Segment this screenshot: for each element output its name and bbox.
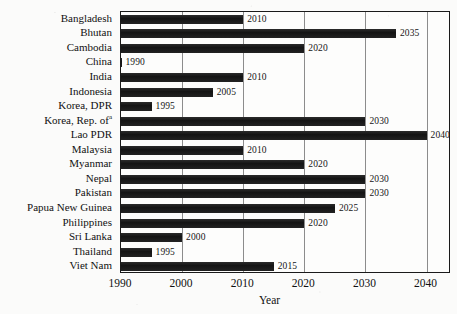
bar <box>121 248 152 257</box>
bar <box>121 131 427 140</box>
x-axis-title: Year <box>0 294 457 306</box>
bar-row: 2010 <box>121 12 449 27</box>
bar-row: 2020 <box>121 216 449 231</box>
bar-value-label: 2030 <box>369 117 388 126</box>
bar-row: 2000 <box>121 230 449 245</box>
bar <box>121 160 304 169</box>
bar <box>121 262 274 271</box>
bar-row: 2030 <box>121 187 449 202</box>
bar-row: 2015 <box>121 259 449 273</box>
x-tick-label: 2000 <box>170 277 193 289</box>
x-tick-label: 1990 <box>109 277 132 289</box>
category-label: Pakistan <box>75 187 112 198</box>
bar-value-label: 2015 <box>278 262 297 271</box>
bar-row: 1990 <box>121 56 449 71</box>
bar-value-label: 1990 <box>126 58 145 67</box>
category-label: Myanmar <box>69 158 112 169</box>
x-axis-ticks: 199020002010202020302040 <box>0 277 457 293</box>
category-label: China <box>86 56 112 67</box>
bar <box>121 117 365 126</box>
category-label-text: Korea, Rep. of <box>44 114 109 126</box>
bar <box>121 15 243 24</box>
category-label: Korea, Rep. ofa <box>44 115 112 126</box>
x-tick-label: 2040 <box>414 277 437 289</box>
bar-value-label: 2020 <box>308 160 327 169</box>
category-label: Cambodia <box>67 42 112 53</box>
bar <box>121 219 304 228</box>
bar-row: 2030 <box>121 114 449 129</box>
bar <box>121 44 304 53</box>
bar-row: 2025 <box>121 201 449 216</box>
bar-row: 2020 <box>121 41 449 56</box>
category-label: Malaysia <box>72 144 112 155</box>
plot-area: 2010203520201990201020051995203020402010… <box>120 11 450 273</box>
category-label: Philippines <box>62 217 112 228</box>
category-label: Bangladesh <box>61 13 112 24</box>
x-tick-label: 2010 <box>231 277 254 289</box>
bar <box>121 189 365 198</box>
category-label: Korea, DPR <box>58 100 112 111</box>
bar <box>121 29 396 38</box>
category-label: Bhutan <box>80 27 112 38</box>
bar-row: 1995 <box>121 245 449 260</box>
category-label: India <box>89 71 112 82</box>
category-label: Indonesia <box>69 86 112 97</box>
bar-row: 2035 <box>121 27 449 42</box>
bar <box>121 58 122 67</box>
bar-row: 2010 <box>121 70 449 85</box>
bar-row: 2040 <box>121 128 449 143</box>
category-label: Viet Nam <box>70 260 112 271</box>
category-label: Papua New Guinea <box>27 202 112 213</box>
bar <box>121 73 243 82</box>
category-label: Sri Lanka <box>69 231 112 242</box>
x-tick-label: 2020 <box>292 277 315 289</box>
chart-root: BangladeshBhutanCambodiaChinaIndiaIndone… <box>0 0 457 314</box>
footnote-marker: a <box>109 113 112 121</box>
x-tick-label: 2030 <box>353 277 376 289</box>
y-axis-category-labels: BangladeshBhutanCambodiaChinaIndiaIndone… <box>0 11 116 273</box>
category-label: Thailand <box>73 246 112 257</box>
bar <box>121 204 335 213</box>
bar-value-label: 2040 <box>431 131 450 140</box>
x-axis-title-text: Year <box>259 294 280 306</box>
bar-row: 2005 <box>121 85 449 100</box>
bar-value-label: 2010 <box>247 73 266 82</box>
bar-value-label: 2035 <box>400 29 419 38</box>
bar <box>121 146 243 155</box>
bar-value-label: 2030 <box>369 175 388 184</box>
bar <box>121 175 365 184</box>
bar-row: 2030 <box>121 172 449 187</box>
bar <box>121 233 182 242</box>
bar <box>121 88 213 97</box>
bar <box>121 102 152 111</box>
bar-value-label: 2030 <box>369 189 388 198</box>
bar-value-label: 2010 <box>247 15 266 24</box>
bar-value-label: 2000 <box>186 233 205 242</box>
bar-value-label: 1995 <box>156 248 175 257</box>
bar-value-label: 2005 <box>217 88 236 97</box>
bar-row: 2020 <box>121 158 449 173</box>
category-label: Lao PDR <box>71 129 112 140</box>
bar-row: 1995 <box>121 99 449 114</box>
category-label: Nepal <box>86 173 112 184</box>
bar-value-label: 1995 <box>156 102 175 111</box>
bar-rows: 2010203520201990201020051995203020402010… <box>121 12 449 272</box>
bar-value-label: 2025 <box>339 204 358 213</box>
bar-value-label: 2020 <box>308 219 327 228</box>
bar-value-label: 2010 <box>247 146 266 155</box>
bar-row: 2010 <box>121 143 449 158</box>
bar-value-label: 2020 <box>308 44 327 53</box>
